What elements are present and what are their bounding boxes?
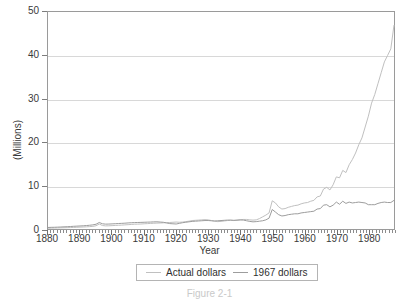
x-tick-1987 bbox=[392, 230, 393, 233]
legend-entry-actual-dollars[interactable]: Actual dollars bbox=[146, 267, 226, 278]
y-tick-label-20: 20 bbox=[8, 137, 39, 147]
legend-swatch-icon bbox=[233, 272, 248, 273]
series-line-1967-dollars bbox=[48, 200, 394, 227]
series-lines bbox=[48, 12, 394, 229]
chart-legend: Actual dollars1967 dollars bbox=[136, 264, 318, 281]
legend-entry-1967-dollars[interactable]: 1967 dollars bbox=[233, 267, 307, 278]
legend-label: Actual dollars bbox=[166, 267, 226, 278]
y-tick-label-30: 30 bbox=[8, 94, 39, 104]
plot-area bbox=[47, 11, 395, 230]
x-axis-title: Year bbox=[0, 245, 419, 256]
legend-swatch-icon bbox=[146, 272, 161, 273]
x-tick-1988 bbox=[395, 230, 396, 233]
x-tick-label-1980: 1980 bbox=[349, 233, 389, 244]
legend-label: 1967 dollars bbox=[253, 267, 307, 278]
figure-caption: Figure 2-1 bbox=[0, 288, 419, 299]
series-line-actual-dollars bbox=[48, 25, 394, 228]
y-tick-label-50: 50 bbox=[8, 6, 39, 16]
y-tick-label-40: 40 bbox=[8, 50, 39, 60]
y-tick-label-10: 10 bbox=[8, 181, 39, 191]
